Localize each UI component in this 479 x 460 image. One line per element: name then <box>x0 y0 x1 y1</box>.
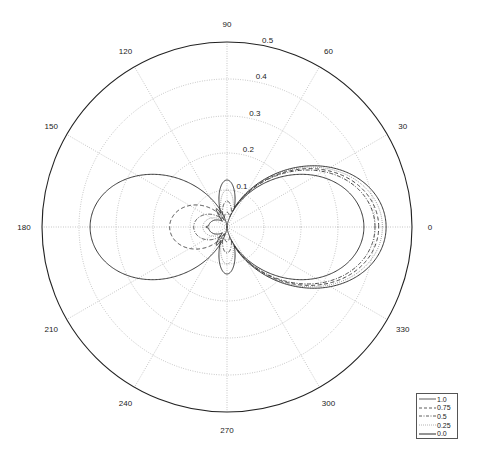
angle-tick-label: 90 <box>223 20 232 29</box>
angle-tick-label: 270 <box>220 426 234 435</box>
radial-tick-label: 0.4 <box>256 72 268 81</box>
grid-spoke <box>67 227 227 320</box>
legend-label: 0.25 <box>437 422 451 429</box>
dotted-line-swatch-icon <box>419 422 436 428</box>
tick-labels: 0.10.20.30.40.50306090120150180210240270… <box>17 20 432 435</box>
angle-tick-label: 150 <box>45 122 59 131</box>
solid-line-swatch-icon <box>419 396 436 402</box>
dashdot-line-swatch-icon <box>419 413 436 419</box>
legend-label: 0.0 <box>437 430 447 437</box>
legend-item: 0.25 <box>419 421 455 430</box>
angle-tick-label: 330 <box>396 325 410 334</box>
grid-spoke <box>227 227 387 320</box>
legend: 1.0 0.75 0.5 0.25 0.0 <box>416 393 458 439</box>
angle-tick-label: 60 <box>324 47 333 56</box>
legend-label: 0.75 <box>437 404 451 411</box>
radial-tick-label: 0.5 <box>262 36 274 45</box>
grid-spoke <box>227 67 320 227</box>
polar-plot: 0.10.20.30.40.50306090120150180210240270… <box>0 0 479 460</box>
grid-spoke <box>227 227 320 387</box>
legend-label: 0.5 <box>437 413 447 420</box>
angle-tick-label: 30 <box>398 122 407 131</box>
radial-tick-label: 0.3 <box>249 109 261 118</box>
angle-tick-label: 210 <box>45 325 59 334</box>
legend-item: 0.75 <box>419 404 455 413</box>
angle-tick-label: 240 <box>119 399 133 408</box>
angle-tick-label: 0 <box>428 223 433 232</box>
dashed-line-swatch-icon <box>419 405 436 411</box>
legend-item: 0.5 <box>419 412 455 421</box>
angle-tick-label: 300 <box>322 399 336 408</box>
angle-tick-label: 120 <box>119 47 133 56</box>
legend-item: 1.0 <box>419 395 455 404</box>
radial-tick-label: 0.2 <box>243 145 255 154</box>
grid-spoke <box>135 227 228 387</box>
solid-line-swatch-icon <box>419 431 436 437</box>
radial-tick-label: 0.1 <box>236 182 248 191</box>
grid-spoke <box>67 135 227 228</box>
grid-spoke <box>135 67 228 227</box>
legend-label: 1.0 <box>437 396 447 403</box>
legend-item: 0.0 <box>419 429 455 438</box>
angle-tick-label: 180 <box>17 223 31 232</box>
